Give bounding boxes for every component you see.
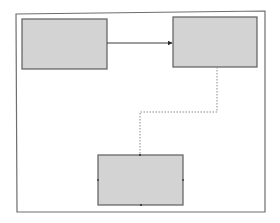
diagram-canvas [0, 0, 280, 223]
process-box-b[interactable] [173, 17, 257, 67]
process-box-c[interactable] [98, 155, 183, 205]
connection-handle-bottom[interactable] [140, 204, 142, 206]
process-box-a[interactable] [22, 19, 107, 69]
dotted-connector-b-to-c[interactable] [140, 67, 217, 155]
connection-handle-left[interactable] [97, 179, 99, 181]
connection-handle-right[interactable] [182, 179, 184, 181]
connection-handle-top[interactable] [139, 154, 141, 156]
